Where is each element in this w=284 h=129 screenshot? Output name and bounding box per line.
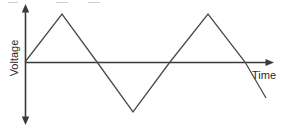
y-axis-arrow-down: [22, 117, 29, 126]
voltage-vs-time-graph: Voltage Time: [0, 0, 284, 129]
y-axis: [22, 4, 29, 125]
x-axis-label: Time: [252, 69, 276, 81]
y-axis-label: Voltage: [8, 30, 20, 86]
x-axis: [25, 59, 274, 66]
x-axis-arrow-right: [266, 59, 275, 66]
graph-canvas: [0, 0, 284, 129]
y-axis-arrow-up: [22, 4, 29, 13]
